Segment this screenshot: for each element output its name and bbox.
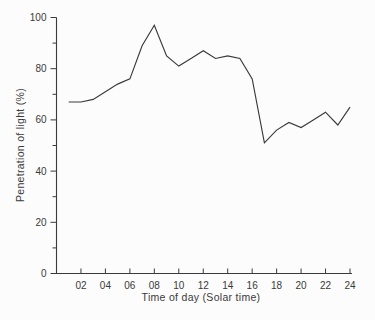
y-tick-label: 20 <box>35 217 47 228</box>
x-tick-label: 14 <box>222 280 234 291</box>
y-tick-label: 60 <box>35 114 47 125</box>
x-tick-label: 06 <box>124 280 136 291</box>
x-tick-label: 08 <box>149 280 161 291</box>
axes-lines <box>57 18 353 274</box>
y-tick-label: 40 <box>35 166 47 177</box>
x-tick-label: 18 <box>271 280 283 291</box>
x-tick-label: 16 <box>247 280 259 291</box>
y-tick-label: 100 <box>30 12 47 23</box>
x-tick-label: 12 <box>198 280 210 291</box>
data-line <box>69 25 350 143</box>
x-tick-label: 04 <box>100 280 112 291</box>
x-tick-label: 02 <box>75 280 87 291</box>
x-tick-label: 20 <box>296 280 308 291</box>
x-tick-label: 22 <box>320 280 332 291</box>
y-axis-title: Penetration of light (%) <box>14 88 26 202</box>
y-tick-label: 80 <box>35 63 47 74</box>
y-tick-label: 0 <box>41 268 47 279</box>
x-tick-label: 24 <box>344 280 356 291</box>
x-axis-title: Time of day (Solar time) <box>142 291 261 303</box>
line-chart: 020406080100020406081012141618202224 <box>0 0 375 320</box>
x-tick-label: 10 <box>173 280 185 291</box>
light-penetration-figure: 020406080100020406081012141618202224 Pen… <box>0 0 375 320</box>
